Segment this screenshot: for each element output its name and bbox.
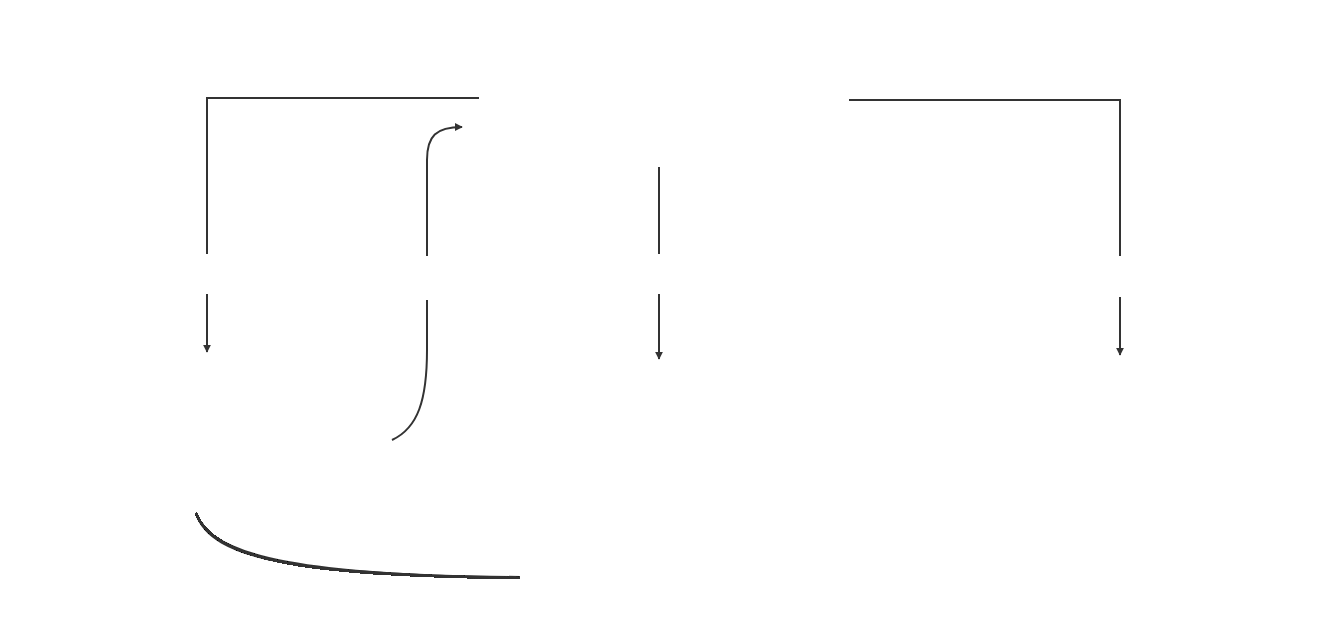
marine-life-connector	[196, 513, 520, 578]
weathering-connector	[849, 100, 1120, 355]
photosynthesis-connector	[392, 127, 462, 440]
respiration-connector	[207, 98, 479, 352]
oxygen-cycle-diagram	[0, 0, 1330, 640]
arrow-right-icon	[427, 127, 462, 256]
connector-lines	[0, 0, 1330, 640]
